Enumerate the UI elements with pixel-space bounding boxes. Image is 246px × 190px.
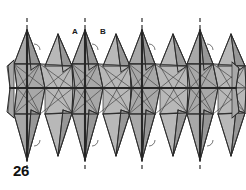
- polyhedral-chain: [14, 30, 246, 160]
- figure-container: .face { fill:#a8a8a8; stroke:#2b2b2b; st…: [0, 0, 246, 190]
- vertex-label-b: B: [100, 28, 106, 36]
- polyhedral-chain-figure: .face { fill:#a8a8a8; stroke:#2b2b2b; st…: [0, 0, 246, 190]
- vertex-label-a: A: [72, 28, 78, 36]
- figure-number: 26: [13, 163, 29, 178]
